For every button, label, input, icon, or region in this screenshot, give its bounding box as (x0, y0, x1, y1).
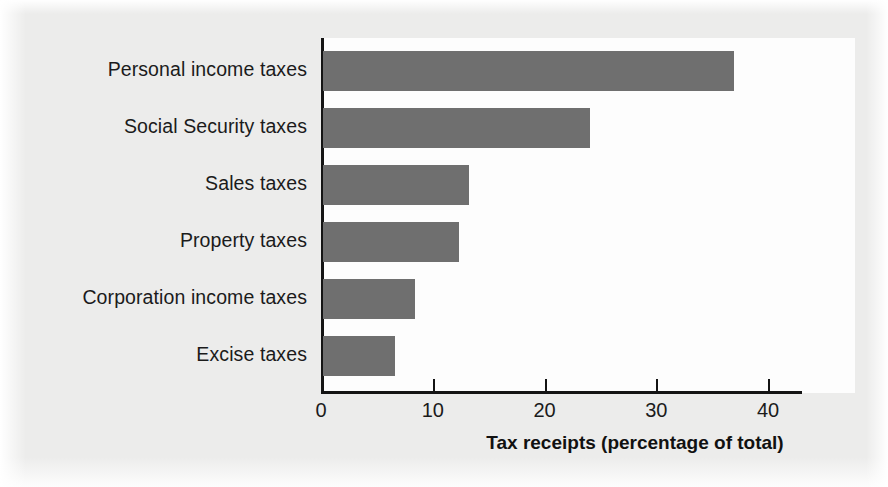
x-axis-tick (656, 379, 658, 392)
x-axis-tick-label: 10 (403, 399, 463, 422)
bar-row (321, 279, 413, 319)
x-axis-title: Tax receipts (percentage of total) (420, 432, 850, 454)
x-axis-tick-label: 20 (515, 399, 575, 422)
bar-sales-taxes (323, 165, 469, 205)
bar-row (321, 51, 732, 91)
bar-row (321, 336, 393, 376)
bar-row (321, 165, 467, 205)
x-axis-tick (768, 379, 770, 392)
plot-area (321, 38, 855, 393)
bar-social-security-taxes (323, 108, 590, 148)
category-label: Property taxes (7, 229, 307, 252)
bar-personal-income-taxes (323, 51, 734, 91)
x-axis-tick (433, 379, 435, 392)
category-label: Excise taxes (7, 343, 307, 366)
category-label: Social Security taxes (7, 115, 307, 138)
bar-row (321, 222, 457, 262)
bar-excise-taxes (323, 336, 395, 376)
x-axis-tick (545, 379, 547, 392)
x-axis-tick-label: 30 (626, 399, 686, 422)
bar-corporation-income-taxes (323, 279, 415, 319)
bar-row (321, 108, 588, 148)
category-label: Personal income taxes (7, 58, 307, 81)
x-axis-tick-label: 0 (291, 399, 351, 422)
x-axis-tick-label: 40 (738, 399, 798, 422)
category-label: Corporation income taxes (7, 286, 307, 309)
bar-property-taxes (323, 222, 459, 262)
category-label: Sales taxes (7, 172, 307, 195)
bar-chart-figure: Tax receipts (percentage of total) Perso… (0, 0, 888, 487)
